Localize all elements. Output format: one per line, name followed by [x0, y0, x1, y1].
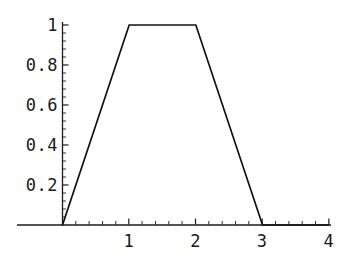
y-tick-label-1: 1: [47, 15, 58, 35]
x-tick-label-2: 2: [190, 231, 201, 251]
y-tick-label-0.4: 0.4: [26, 135, 58, 155]
x-tick-label-1: 1: [123, 231, 134, 251]
chart-screenshot: 1 0.8 0.6 0.4 0.2 1 2 3 4: [0, 0, 349, 269]
x-tick-label-3: 3: [257, 231, 268, 251]
y-tick-label-0.8: 0.8: [26, 55, 58, 75]
y-tick-label-0.2: 0.2: [26, 175, 58, 195]
x-tick-label-4: 4: [324, 231, 335, 251]
y-tick-label-0.6: 0.6: [26, 95, 58, 115]
trapezoid-line-chart: 1 0.8 0.6 0.4 0.2 1 2 3 4: [0, 0, 349, 269]
